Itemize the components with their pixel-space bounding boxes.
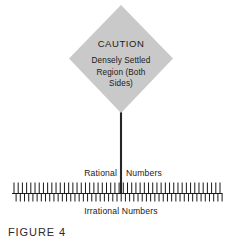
caution-title: CAUTION [98,38,145,49]
figure-container: CAUTION Densely Settled Region (Both Sid… [0,0,232,246]
label-rational: Rational [84,168,117,178]
label-irrational-numbers: Irrational Numbers [84,206,157,216]
number-line-ticks-rational [14,183,220,195]
caution-body-line-3: Sides) [109,79,133,88]
caution-body-line-2: Region (Both [97,68,146,77]
number-line-ticks-irrational [16,193,222,202]
figure-svg: CAUTION Densely Settled Region (Both Sid… [0,0,232,246]
label-numbers-right: Numbers [126,168,162,178]
caution-body-line-1: Densely Settled [92,56,151,65]
figure-caption: FIGURE 4 [8,226,66,238]
